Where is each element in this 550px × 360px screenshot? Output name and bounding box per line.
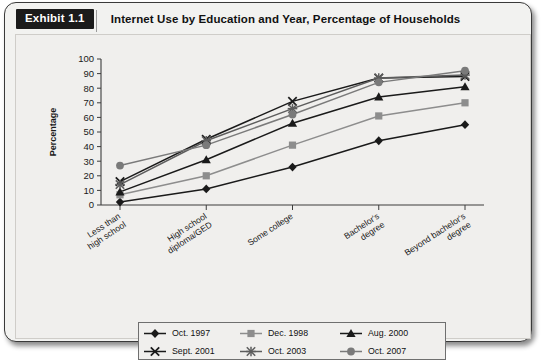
square-marker [375, 112, 382, 119]
legend-item-dec-1998[interactable]: Dec. 1998 [239, 324, 339, 342]
y-axis-tick-label: 70 [83, 97, 94, 108]
data-point-square [375, 112, 382, 119]
data-point-diamond [202, 185, 210, 194]
diamond-marker [151, 329, 159, 338]
data-point-circle [347, 347, 355, 355]
x-axis-tick-label: Some college [246, 211, 295, 248]
square-marker [247, 329, 254, 336]
legend-swatch-asterisk-icon [239, 346, 263, 357]
legend-label: Oct. 2003 [268, 346, 306, 356]
data-point-asterisk [115, 180, 125, 190]
square-marker [203, 172, 210, 179]
legend-swatch-x-icon [143, 346, 167, 357]
legend-swatch-circle-icon [339, 346, 363, 357]
x-axis-tick-label-line: Some college [246, 211, 295, 248]
y-axis-tick-label: 40 [83, 141, 94, 152]
legend-swatch-square-icon [239, 328, 263, 339]
diamond-marker [461, 120, 469, 129]
exhibit-header: Exhibit 1.1 Internet Use by Education an… [10, 6, 530, 32]
data-point-circle [375, 78, 383, 86]
legend-swatch-diamond-icon [143, 328, 167, 339]
y-axis-tick-label: 20 [83, 170, 94, 181]
data-point-triangle [460, 82, 469, 90]
data-point-circle [461, 67, 469, 75]
chart-panel: 0102030405060708090100PercentageLess tha… [15, 34, 531, 339]
y-axis-tick-label: 80 [83, 83, 94, 94]
exhibit-tag: Exhibit 1.1 [16, 9, 94, 29]
triangle-marker [202, 155, 211, 163]
y-axis-tick-label: 100 [78, 53, 94, 64]
data-point-circle [289, 111, 297, 119]
data-point-diamond [375, 136, 383, 145]
legend-label: Aug. 2000 [368, 328, 408, 338]
y-axis-tick-label: 30 [83, 156, 94, 167]
data-point-square [461, 99, 468, 106]
y-axis-tick-label: 90 [83, 68, 94, 79]
x-axis-tick-label: Beyond bachelor'sdegree [403, 211, 473, 266]
diamond-marker [375, 136, 383, 145]
y-axis-tick-label: 0 [89, 199, 94, 210]
legend-item-sept-2001[interactable]: Sept. 2001 [143, 342, 239, 360]
diamond-marker [288, 163, 296, 172]
y-axis-tick-label: 60 [83, 112, 94, 123]
legend-label: Dec. 1998 [268, 328, 308, 338]
y-axis-title: Percentage [48, 108, 58, 157]
x-axis-tick-label: High schooldiploma/GED [160, 211, 214, 256]
square-marker [289, 142, 296, 149]
plot-area: 0102030405060708090100PercentageLess tha… [16, 35, 532, 340]
data-point-circle [116, 162, 124, 170]
legend-item-aug-2000[interactable]: Aug. 2000 [339, 324, 439, 342]
circle-marker [289, 111, 297, 119]
square-marker [461, 99, 468, 106]
circle-marker [202, 141, 210, 149]
y-axis-tick-label: 50 [83, 126, 94, 137]
data-point-circle [202, 141, 210, 149]
legend-item-oct-1997[interactable]: Oct. 1997 [143, 324, 239, 342]
chart-legend: Oct. 1997Dec. 1998Aug. 2000Sept. 2001Oct… [138, 322, 446, 360]
x-axis-tick-label: Bachelor'sdegree [342, 211, 387, 250]
legend-label: Oct. 2007 [368, 346, 406, 356]
diamond-marker [202, 185, 210, 194]
exhibit-title: Internet Use by Education and Year, Perc… [111, 13, 461, 25]
legend-label: Oct. 1997 [172, 328, 210, 338]
data-point-square [289, 142, 296, 149]
circle-marker [347, 347, 355, 355]
legend-item-oct-2007[interactable]: Oct. 2007 [339, 342, 439, 360]
y-axis-tick-label: 10 [83, 185, 94, 196]
data-point-diamond [151, 329, 159, 338]
data-point-asterisk [246, 346, 256, 356]
triangle-marker [460, 82, 469, 90]
circle-marker [375, 78, 383, 86]
data-point-diamond [288, 163, 296, 172]
data-point-triangle [202, 155, 211, 163]
header-divider [96, 10, 97, 32]
data-point-square [247, 329, 254, 336]
line-chart: 0102030405060708090100PercentageLess tha… [16, 35, 532, 295]
circle-marker [116, 162, 124, 170]
legend-item-oct-2003[interactable]: Oct. 2003 [239, 342, 339, 360]
data-point-square [203, 172, 210, 179]
x-axis-tick-label: Less thanhigh school [80, 211, 128, 252]
legend-label: Sept. 2001 [172, 346, 215, 356]
legend-swatch-triangle-icon [339, 328, 363, 339]
exhibit-frame: Exhibit 1.1 Internet Use by Education an… [4, 2, 532, 342]
data-point-diamond [461, 120, 469, 129]
circle-marker [461, 67, 469, 75]
